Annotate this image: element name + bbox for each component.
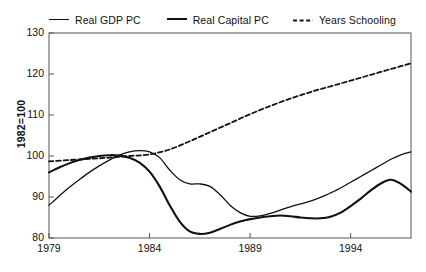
chart-plot-area bbox=[0, 0, 426, 272]
series-line-real-gdp-pc bbox=[49, 151, 411, 217]
y-axis-tick-marks bbox=[49, 33, 54, 238]
plot-frame bbox=[49, 33, 411, 238]
chart-container: Real GDP PC Real Capital PC Years School… bbox=[0, 0, 426, 272]
series-line-real-capital-pc bbox=[49, 155, 411, 234]
data-series-layer bbox=[49, 63, 411, 234]
series-line-years-schooling bbox=[49, 63, 411, 161]
